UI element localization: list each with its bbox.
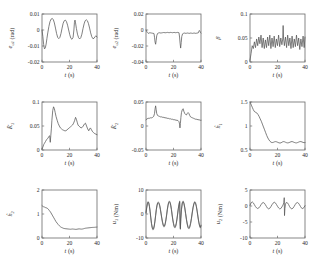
x-tick-label: 20 — [67, 64, 73, 70]
x-axis-label: t (s) — [65, 159, 75, 167]
y-tick-label: 0.1 — [33, 99, 40, 105]
plot-svg-h-hat-1: 1.510.502040t (s)ĥ1 — [208, 88, 312, 176]
y-tick-label: -0.05 — [132, 147, 144, 153]
y-tick-label: 2 — [37, 187, 40, 193]
x-tick-label: 0 — [41, 152, 44, 158]
y-tick-label: -0.02 — [132, 43, 144, 49]
x-tick-label: 0 — [145, 240, 148, 246]
x-tick-label: 0 — [249, 152, 252, 158]
x-tick-label: 40 — [198, 64, 204, 70]
x-axis-label: t (s) — [65, 71, 75, 79]
y-tick-label: 5 — [245, 187, 248, 193]
x-axis-label: t (s) — [65, 247, 75, 255]
plot-svg-beta: 0.10.05002040t (s)β — [208, 0, 312, 88]
y-tick-label: -10 — [240, 235, 248, 241]
x-tick-label: 20 — [275, 152, 281, 158]
plot-cell-e-u1: 0.010-0.01-0.0202040t (s)eu1(rad) — [0, 0, 104, 88]
y-axis-label: K̂1 — [6, 123, 15, 131]
figure-panel-grid: 0.010-0.01-0.0202040t (s)eu1(rad)0.020-0… — [0, 0, 314, 264]
x-tick-label: 20 — [67, 240, 73, 246]
plot-svg-h-hat-2: 21002040t (s)ĥ2 — [0, 176, 104, 264]
plot-frame — [250, 190, 305, 238]
y-tick-label: 0.02 — [134, 11, 144, 17]
data-curve — [250, 102, 305, 143]
y-tick-label: 0.5 — [241, 147, 248, 153]
data-curve — [250, 198, 305, 216]
y-tick-label: 0.05 — [134, 99, 144, 105]
y-tick-label: -0.04 — [132, 59, 144, 65]
y-tick-label: 10 — [138, 187, 144, 193]
y-tick-label: 0 — [141, 27, 144, 33]
plot-frame — [42, 102, 97, 150]
data-curve — [42, 206, 97, 230]
data-curve — [146, 106, 201, 128]
y-tick-label: 1 — [37, 211, 40, 217]
x-axis-label: t (s) — [169, 247, 179, 255]
plot-svg-e-u2: 0.020-0.02-0.0402040t (s)eu2(rad) — [104, 0, 208, 88]
x-tick-label: 0 — [41, 240, 44, 246]
plot-svg-K-hat-1: 0.10.05002040t (s)K̂1 — [0, 88, 104, 176]
x-axis-label: t (s) — [169, 159, 179, 167]
x-tick-label: 20 — [171, 64, 177, 70]
y-axis-label: ĥ1 — [214, 123, 223, 129]
y-axis-label: ĥ2 — [6, 210, 15, 216]
data-curve — [42, 107, 97, 149]
x-tick-label: 20 — [67, 152, 73, 158]
plot-svg-u2: 50-5-1002040t (s)u2(Nm) — [208, 176, 312, 264]
y-tick-label: -10 — [136, 235, 144, 241]
x-tick-label: 0 — [41, 64, 44, 70]
y-tick-label: 0 — [37, 235, 40, 241]
x-tick-label: 0 — [145, 152, 148, 158]
x-tick-label: 40 — [302, 64, 308, 70]
plot-cell-u2: 50-5-1002040t (s)u2(Nm) — [208, 176, 312, 264]
x-tick-label: 40 — [94, 240, 100, 246]
y-tick-label: 0 — [245, 203, 248, 209]
plot-frame — [146, 190, 201, 238]
y-tick-label: 1 — [245, 123, 248, 129]
plot-cell-h-hat-2: 21002040t (s)ĥ2 — [0, 176, 104, 264]
data-curve-overlay — [146, 201, 201, 229]
x-axis-label: t (s) — [273, 71, 283, 79]
y-tick-label: -5 — [243, 219, 248, 225]
y-tick-label: 0 — [141, 211, 144, 217]
plot-svg-K-hat-2: 0.050-0.0502040t (s)K̂2 — [104, 88, 208, 176]
y-axis-label: u1(Nm) — [110, 204, 120, 224]
y-tick-label: -0.01 — [28, 43, 40, 49]
x-axis-label: t (s) — [169, 71, 179, 79]
plot-frame — [146, 102, 201, 150]
x-tick-label: 40 — [94, 152, 100, 158]
plot-frame — [42, 190, 97, 238]
x-tick-label: 20 — [275, 64, 281, 70]
data-curve — [250, 26, 305, 61]
data-curve — [42, 18, 97, 48]
x-axis-label: t (s) — [273, 247, 283, 255]
x-tick-label: 0 — [249, 64, 252, 70]
y-tick-label: 0 — [37, 27, 40, 33]
plot-cell-K-hat-1: 0.10.05002040t (s)K̂1 — [0, 88, 104, 176]
y-axis-label: eu1(rad) — [6, 28, 16, 49]
y-tick-label: 1.5 — [241, 99, 248, 105]
plot-svg-e-u1: 0.010-0.01-0.0202040t (s)eu1(rad) — [0, 0, 104, 88]
x-tick-label: 40 — [198, 152, 204, 158]
x-tick-label: 40 — [94, 64, 100, 70]
y-tick-label: -0.02 — [28, 59, 40, 65]
x-tick-label: 0 — [145, 64, 148, 70]
x-tick-label: 20 — [171, 152, 177, 158]
plot-cell-u1: 100-1002040t (s)u1(Nm) — [104, 176, 208, 264]
y-tick-label: 0 — [141, 123, 144, 129]
x-tick-label: 40 — [302, 152, 308, 158]
y-axis-label: u2(Nm) — [214, 204, 224, 224]
plot-cell-K-hat-2: 0.050-0.0502040t (s)K̂2 — [104, 88, 208, 176]
x-tick-label: 40 — [198, 240, 204, 246]
plot-cell-e-u2: 0.020-0.02-0.0402040t (s)eu2(rad) — [104, 0, 208, 88]
plot-cell-beta: 0.10.05002040t (s)β — [208, 0, 312, 88]
x-tick-label: 20 — [275, 240, 281, 246]
y-tick-label: 0.05 — [30, 123, 40, 129]
y-tick-label: 0 — [245, 59, 248, 65]
y-tick-label: 0.05 — [238, 35, 248, 41]
x-tick-label: 20 — [171, 240, 177, 246]
y-tick-label: 0.1 — [241, 11, 248, 17]
plot-cell-h-hat-1: 1.510.502040t (s)ĥ1 — [208, 88, 312, 176]
y-axis-label: β — [214, 36, 221, 41]
y-tick-label: 0.01 — [30, 11, 40, 17]
